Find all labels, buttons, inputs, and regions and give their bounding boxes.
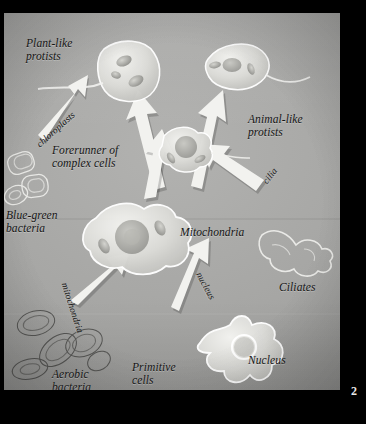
complex-amoeboid-cell <box>83 203 192 274</box>
label-aerobic-bacteria: Aerobic bacteria <box>52 368 91 390</box>
label-forerunner-of-complex-cells: Forerunner of complex cells <box>52 144 118 169</box>
figure-frame: Plant-like protists chloroplasts Forerun… <box>0 0 366 424</box>
label-mitochondria-center: Mitochondria <box>180 226 244 239</box>
primitive-cell <box>198 316 283 382</box>
ciliate-organism <box>259 231 332 276</box>
label-plant-like-protists: Plant-like protists <box>26 37 72 62</box>
label-nucleus: Nucleus <box>248 354 286 367</box>
label-ciliates: Ciliates <box>279 281 316 294</box>
label-blue-green-bacteria: Blue-green bacteria <box>6 209 58 234</box>
diagram-plate: Plant-like protists chloroplasts Forerun… <box>4 13 340 390</box>
animal-like-protist-cell <box>205 44 310 90</box>
diagram-artwork <box>4 13 340 390</box>
label-primitive-cells: Primitive cells <box>132 361 176 386</box>
label-animal-like-protists: Animal-like protists <box>248 113 303 138</box>
blue-green-bacteria-cluster <box>4 149 49 208</box>
page-number: 2 <box>351 384 357 399</box>
